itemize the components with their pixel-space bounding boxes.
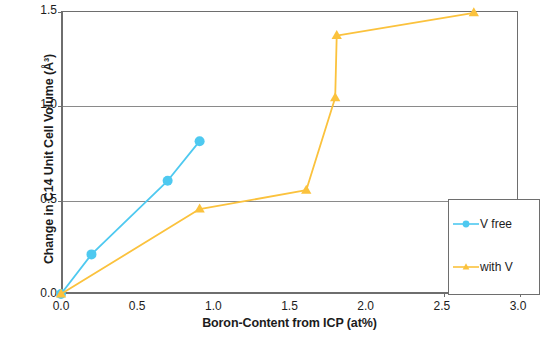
x-tick-label: 2.5: [412, 299, 472, 313]
data-point-triangle[interactable]: [469, 7, 479, 16]
legend-item-v-free[interactable]: V free: [453, 216, 512, 232]
legend-item-with-v[interactable]: with V: [453, 259, 513, 275]
x-tick-label: 2.0: [336, 299, 396, 313]
data-point-triangle[interactable]: [330, 92, 340, 101]
legend-marker-circle-icon: [453, 217, 479, 231]
legend-label-v-free: V free: [480, 217, 512, 231]
data-point-triangle[interactable]: [301, 185, 311, 194]
y-tick-label: 0.0: [13, 286, 57, 300]
x-tick-label: 3.0: [488, 299, 544, 313]
series-line-v-free: [61, 141, 200, 294]
y-axis-tick-labels: 1.5 1.0 0.5 0.0: [0, 0, 57, 337]
x-tick-label: 0.5: [107, 299, 167, 313]
legend-marker-triangle-icon: [453, 260, 479, 274]
data-point-circle[interactable]: [86, 249, 96, 259]
x-tick-label: 1.5: [260, 299, 320, 313]
legend-label-with-v: with V: [480, 260, 513, 274]
x-tick-label: 0.0: [31, 299, 91, 313]
legend: V free with V: [448, 199, 540, 295]
data-point-circle[interactable]: [163, 176, 173, 186]
series-line-with-v: [61, 13, 474, 294]
y-tick-label: 1.0: [13, 97, 57, 111]
y-tick-label: 1.5: [13, 3, 57, 17]
x-axis-title: Boron-Content from ICP (at%): [61, 316, 518, 330]
y-tick-label: 0.5: [13, 192, 57, 206]
x-tick-label: 1.0: [183, 299, 243, 313]
data-point-circle[interactable]: [195, 136, 205, 146]
